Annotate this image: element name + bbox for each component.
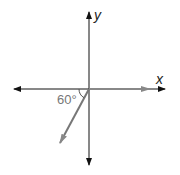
y-axis-label: y — [93, 7, 102, 23]
x-axis-label: x — [155, 71, 164, 87]
angle-label: 60° — [57, 92, 77, 107]
angle-arc — [79, 89, 84, 98]
vector-diagram: 60° y x — [0, 0, 180, 175]
diagram-canvas: 60° y x — [0, 0, 180, 175]
